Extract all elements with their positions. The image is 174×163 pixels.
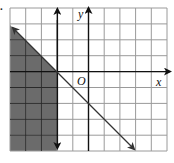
y-axis-label: y xyxy=(77,7,84,21)
x-axis-label: x xyxy=(155,75,162,89)
coordinate-graph: y x O xyxy=(0,0,174,163)
boundary-line-diagonal xyxy=(57,72,134,149)
origin-label: O xyxy=(77,74,86,88)
